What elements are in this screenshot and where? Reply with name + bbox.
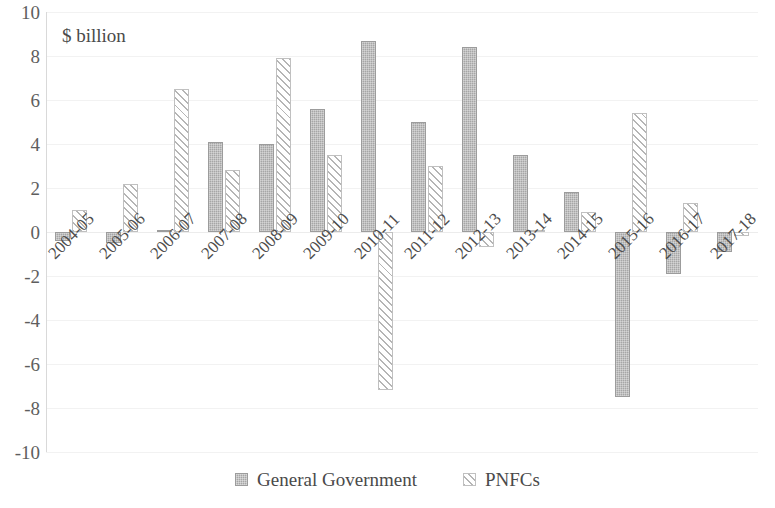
chart-legend: General GovernmentPNFCs bbox=[0, 470, 775, 489]
legend-item[interactable]: General Government bbox=[235, 470, 417, 489]
legend-item[interactable]: PNFCs bbox=[463, 470, 540, 489]
legend-label: General Government bbox=[257, 470, 417, 489]
y-tick-label: 2 bbox=[31, 179, 41, 198]
gridline bbox=[46, 452, 758, 453]
bar-gg bbox=[411, 122, 426, 232]
y-tick-label: 10 bbox=[21, 3, 40, 22]
bar-chart: 1086420-2-4-6-8-10 $ billion 2004-052005… bbox=[0, 0, 775, 508]
y-tick-label: 4 bbox=[31, 135, 41, 154]
bar-gg bbox=[208, 142, 223, 232]
y-tick-label: -10 bbox=[15, 443, 40, 462]
y-tick-label: -2 bbox=[24, 267, 40, 286]
y-tick-label: 6 bbox=[31, 91, 41, 110]
bar-pnfc bbox=[378, 232, 393, 390]
y-tick-label: 0 bbox=[31, 223, 41, 242]
y-tick-label: -8 bbox=[24, 399, 40, 418]
bar-gg bbox=[310, 109, 325, 232]
bar-gg bbox=[259, 144, 274, 232]
y-axis: 1086420-2-4-6-8-10 bbox=[0, 0, 46, 508]
legend-swatch-icon bbox=[235, 473, 248, 486]
legend-swatch-icon bbox=[463, 473, 476, 486]
bar-gg bbox=[462, 47, 477, 232]
bar-pnfc bbox=[276, 58, 291, 232]
bar-gg bbox=[513, 155, 528, 232]
bar-gg bbox=[361, 41, 376, 232]
legend-label: PNFCs bbox=[485, 470, 540, 489]
y-tick-label: -6 bbox=[24, 355, 40, 374]
y-tick-label: 8 bbox=[31, 47, 41, 66]
y-tick-label: -4 bbox=[24, 311, 40, 330]
bars-layer bbox=[46, 12, 758, 452]
